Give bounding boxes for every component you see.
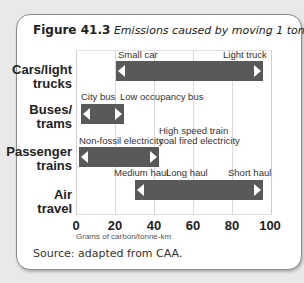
x-tick-60: 60 — [186, 218, 200, 233]
arrow-right-icon — [115, 108, 122, 120]
label-long-haul: Long haul — [166, 168, 208, 178]
category-line: Air — [37, 188, 72, 202]
label-coal-fired-electricity: coal fired electricity — [159, 136, 240, 146]
category-line: trams — [29, 117, 72, 131]
category-line: travel — [37, 202, 72, 216]
label-non-fossil-electricity: Non-fossil electricity — [79, 136, 163, 146]
category-buses-trams: Buses/ trams — [29, 103, 72, 131]
arrow-left-icon — [81, 151, 88, 163]
figure-number: Figure 41.3 — [33, 23, 110, 37]
bar-passenger-trains — [79, 147, 159, 167]
x-tick-40: 40 — [147, 218, 161, 233]
label-city-bus: City bus — [81, 92, 115, 102]
category-cars-light-trucks: Cars/light trucks — [12, 63, 72, 91]
figure-caption: Emissions caused by moving 1 tonne, 1 km — [114, 24, 304, 37]
figure-title: Figure 41.3 Emissions caused by moving 1… — [33, 22, 304, 37]
bar-cars-light-trucks — [116, 61, 263, 81]
bar-buses-trams — [81, 104, 124, 124]
x-tick-100: 100 — [259, 218, 281, 233]
arrow-left-icon — [118, 65, 125, 77]
x-axis-label: Grams of carbon/tonne-km — [76, 232, 171, 241]
label-light-truck: Light truck — [223, 50, 267, 60]
label-short-haul: Short haul — [228, 168, 271, 178]
category-passenger-trains: Passenger trains — [6, 145, 72, 173]
arrow-right-icon — [254, 65, 261, 77]
source-note: Source: adapted from CAA. — [33, 247, 182, 260]
arrow-left-icon — [137, 184, 144, 196]
x-tick-0: 0 — [72, 218, 79, 233]
x-tick-80: 80 — [225, 218, 239, 233]
arrow-left-icon — [83, 108, 90, 120]
category-air-travel: Air travel — [37, 188, 72, 216]
category-line: Buses/ — [29, 103, 72, 117]
category-line: trains — [6, 159, 72, 173]
chart-plot-area: Small car Light truck City bus Low occup… — [76, 50, 272, 215]
category-line: trucks — [12, 77, 72, 91]
arrow-right-icon — [150, 151, 157, 163]
arrow-right-icon — [254, 184, 261, 196]
x-tick-20: 20 — [108, 218, 122, 233]
label-medium-haul: Medium haul — [114, 168, 168, 178]
category-line: Cars/light — [12, 63, 72, 77]
bar-air-travel — [135, 180, 263, 200]
label-small-car: Small car — [118, 50, 158, 60]
label-low-occupancy-bus: Low occupancy bus — [120, 92, 203, 102]
category-line: Passenger — [6, 145, 72, 159]
